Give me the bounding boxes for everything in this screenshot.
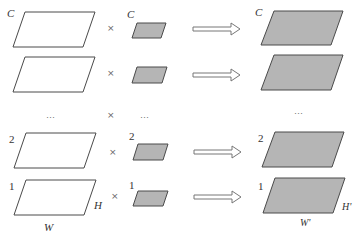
multiply-operator: ×: [109, 148, 117, 157]
weight-c-minus-1: [132, 67, 167, 83]
ellipsis-weight: …: [140, 111, 150, 120]
output-height-label: H': [342, 202, 351, 212]
output-map-1: [263, 178, 345, 213]
arrows: [193, 23, 241, 203]
weight-1: [133, 191, 168, 206]
input-label-c: C: [7, 8, 14, 19]
input-map-c-minus-1: [13, 57, 95, 92]
weight-label-2: 2: [129, 131, 135, 142]
multiply-operator: ×: [107, 24, 115, 33]
ellipsis-input: …: [46, 111, 56, 120]
output-map-c: [261, 11, 343, 45]
multiply-operator: ×: [107, 111, 115, 120]
weight-label-c: C: [127, 9, 134, 20]
weight-2: [133, 144, 168, 160]
arrow-icon: [193, 23, 240, 35]
output-width-label: W': [300, 218, 310, 228]
output-map-2: [262, 132, 344, 167]
ellipsis-output: …: [294, 107, 304, 116]
output-map-c-minus-1: [261, 55, 343, 90]
arrow-icon: [194, 146, 241, 158]
output-label-2: 2: [258, 133, 264, 144]
input-label-2: 2: [9, 134, 15, 145]
input-width-label: W: [44, 222, 53, 233]
input-map-1: [14, 180, 96, 215]
arrow-icon: [193, 69, 240, 81]
input-map-c: [13, 12, 95, 47]
input-label-1: 1: [9, 181, 15, 192]
channel-weights: [132, 23, 168, 206]
weight-c: [132, 23, 166, 38]
input-map-2: [14, 133, 96, 168]
input-height-label: H: [94, 200, 102, 211]
multiply-operator: ×: [111, 192, 119, 201]
arrow-icon: [194, 191, 241, 203]
output-label-c: C: [255, 7, 262, 18]
output-label-1: 1: [258, 181, 264, 192]
weight-label-1: 1: [129, 180, 135, 191]
multiply-operator: ×: [107, 69, 115, 78]
